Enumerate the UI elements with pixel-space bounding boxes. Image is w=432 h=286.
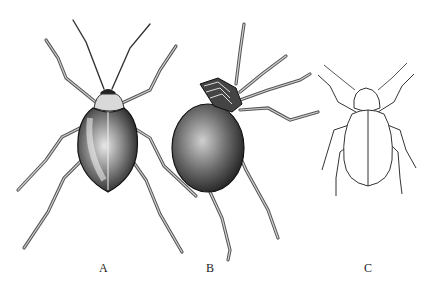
beetle-c-antennae — [324, 63, 407, 90]
beetle-a-pronotum — [94, 94, 124, 111]
panel-label-c: C — [364, 261, 372, 276]
beetle-c-pronotum — [354, 88, 380, 111]
figure-plate: A B C — [0, 0, 432, 286]
beetle-c — [318, 63, 416, 196]
illustration-canvas — [0, 0, 432, 286]
beetle-b-abdomen — [172, 104, 244, 192]
beetle-a-antennae — [73, 20, 150, 89]
beetle-a — [18, 20, 196, 252]
panel-label-b: B — [206, 261, 214, 276]
panel-label-a: A — [99, 261, 108, 276]
beetle-b — [172, 24, 318, 260]
